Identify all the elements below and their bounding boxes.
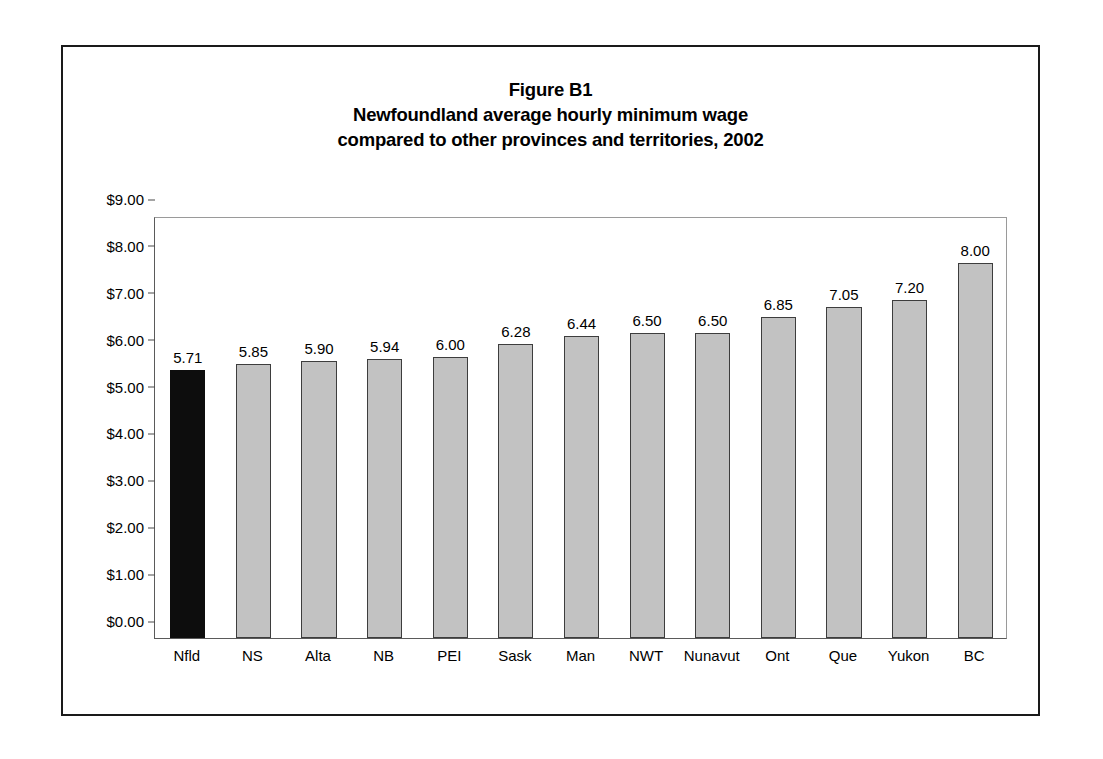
bar-que[interactable]: [826, 307, 861, 638]
bar-value-label: 6.50: [633, 312, 662, 329]
bar-slot: 5.94: [367, 218, 402, 638]
bar-slot: 5.71: [170, 218, 205, 638]
bar-value-label: 5.90: [304, 340, 333, 357]
y-axis-tick-label: $2.00: [106, 519, 155, 536]
x-axis-tick-label: Sask: [498, 647, 531, 664]
chart-title: Figure B1 Newfoundland average hourly mi…: [63, 77, 1038, 152]
y-axis-tick-label: $5.00: [106, 378, 155, 395]
y-axis-tick-label: $1.00: [106, 566, 155, 583]
x-axis-tick-label: Yukon: [888, 647, 930, 664]
x-axis-tick-label: NWT: [629, 647, 663, 664]
figure-frame: Figure B1 Newfoundland average hourly mi…: [61, 45, 1040, 716]
x-axis-tick-label: Alta: [305, 647, 331, 664]
bar-man[interactable]: [564, 336, 599, 638]
bar-value-label: 6.44: [567, 315, 596, 332]
bar-value-label: 5.94: [370, 338, 399, 355]
y-axis-tick-label: $0.00: [106, 613, 155, 630]
y-axis-tick-label: $7.00: [106, 284, 155, 301]
bar-slot: 6.44: [564, 218, 599, 638]
bar-slot: 6.85: [761, 218, 796, 638]
x-axis-tick-label: NS: [242, 647, 263, 664]
x-axis-tick-label: NB: [373, 647, 394, 664]
bars-layer: 5.715.855.905.946.006.286.446.506.506.85…: [155, 218, 1006, 638]
x-axis-tick-label: PEI: [437, 647, 461, 664]
bar-slot: 8.00: [958, 218, 993, 638]
bar-value-label: 7.05: [829, 286, 858, 303]
bar-value-label: 5.85: [239, 343, 268, 360]
bar-nwt[interactable]: [630, 333, 665, 638]
bar-nb[interactable]: [367, 359, 402, 638]
bar-nfld[interactable]: [170, 370, 205, 638]
bar-ont[interactable]: [761, 317, 796, 638]
bar-slot: 5.85: [236, 218, 271, 638]
y-axis-tick-label: $6.00: [106, 331, 155, 348]
bar-slot: 7.05: [826, 218, 861, 638]
y-axis-tick-label: $4.00: [106, 425, 155, 442]
bar-ns[interactable]: [236, 364, 271, 638]
bar-slot: 5.90: [301, 218, 336, 638]
chart-title-line-2: Newfoundland average hourly minimum wage: [63, 102, 1038, 127]
bar-slot: 6.50: [695, 218, 730, 638]
x-axis-tick-label: Ont: [765, 647, 789, 664]
x-axis-tick-label: Man: [566, 647, 595, 664]
bar-slot: 6.00: [433, 218, 468, 638]
bar-value-label: 7.20: [895, 279, 924, 296]
bar-value-label: 6.50: [698, 312, 727, 329]
bar-bc[interactable]: [958, 263, 993, 638]
bar-value-label: 6.00: [436, 336, 465, 353]
bar-slot: 7.20: [892, 218, 927, 638]
bar-nunavut[interactable]: [695, 333, 730, 638]
y-axis-tick-label: $9.00: [106, 191, 155, 208]
bar-slot: 6.50: [630, 218, 665, 638]
x-axis-tick-label: Nunavut: [684, 647, 740, 664]
bar-value-label: 6.28: [501, 323, 530, 340]
bar-yukon[interactable]: [892, 300, 927, 638]
plot-area: $0.00$1.00$2.00$3.00$4.00$5.00$6.00$7.00…: [154, 217, 1007, 639]
bar-alta[interactable]: [301, 361, 336, 638]
x-axis-tick-label: Que: [829, 647, 857, 664]
y-axis-tick-label: $8.00: [106, 237, 155, 254]
bar-value-label: 6.85: [764, 296, 793, 313]
bar-value-label: 5.71: [173, 349, 202, 366]
x-axis-tick-label: BC: [964, 647, 985, 664]
y-axis-tick-label: $3.00: [106, 472, 155, 489]
chart-title-line-1: Figure B1: [63, 77, 1038, 102]
chart-title-line-3: compared to other provinces and territor…: [63, 127, 1038, 152]
bar-pei[interactable]: [433, 357, 468, 638]
x-axis: NfldNSAltaNBPEISaskManNWTNunavutOntQueYu…: [154, 647, 1007, 677]
bar-value-label: 8.00: [961, 242, 990, 259]
x-axis-tick-label: Nfld: [173, 647, 200, 664]
bar-slot: 6.28: [498, 218, 533, 638]
bar-sask[interactable]: [498, 344, 533, 638]
